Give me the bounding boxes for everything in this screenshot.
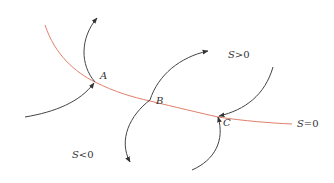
trajectory-out-of-c: [192, 117, 220, 170]
trajectory-into-a: [25, 83, 94, 117]
switching-line-s-equals-0: [45, 25, 292, 124]
trajectory-out-of-a: [84, 18, 97, 82]
switching-line-label: S=0: [297, 118, 319, 129]
trajectory-into-c: [219, 67, 273, 116]
point-label-a: A: [99, 70, 107, 81]
trajectory-into-b-from-below: [125, 100, 150, 162]
trajectory-out-of-b: [150, 51, 208, 100]
region-label-s-negative: S<0: [72, 149, 94, 160]
point-label-c: C: [223, 117, 231, 128]
sliding-mode-diagram: A B C S>0 S<0 S=0: [0, 0, 334, 183]
point-label-b: B: [155, 95, 163, 106]
region-label-s-positive: S>0: [228, 49, 250, 60]
